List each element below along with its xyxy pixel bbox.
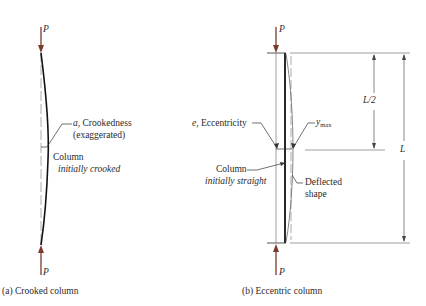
ymax-label: ymax bbox=[316, 117, 331, 130]
ymax-leader bbox=[293, 123, 315, 148]
load-label-top-b: P bbox=[279, 24, 285, 35]
deflected-label-2: shape bbox=[305, 189, 327, 200]
crooked-column-curve bbox=[41, 53, 48, 245]
caption-b: (b) Eccentric column bbox=[242, 286, 322, 296]
deflected-label: Deflected bbox=[305, 177, 342, 188]
eccentricity-text: , Eccentricity bbox=[196, 118, 247, 128]
crookedness-text: , Crookedness bbox=[78, 118, 132, 128]
deflected-shape-curve bbox=[286, 54, 293, 242]
deflected-shape-leader bbox=[292, 175, 303, 183]
load-label-top-a: P bbox=[43, 24, 49, 35]
column-label-a: Column bbox=[53, 152, 84, 163]
eccentricity-label: e, Eccentricity bbox=[192, 118, 247, 129]
crookedness-note: (exaggerated) bbox=[73, 130, 125, 141]
crookedness-label: a, Crookedness bbox=[73, 118, 132, 129]
ymax-subscript: max bbox=[320, 121, 331, 128]
crooked-column-diagram bbox=[38, 27, 72, 275]
crookedness-leader bbox=[47, 124, 72, 147]
column-note-a: initially crooked bbox=[58, 164, 120, 175]
caption-a: (a) Crooked column bbox=[2, 286, 79, 296]
load-label-bottom-b: P bbox=[279, 267, 285, 278]
eccentricity-leader bbox=[252, 123, 277, 148]
column-label-b: Column bbox=[216, 164, 247, 175]
load-label-bottom-a: P bbox=[43, 267, 49, 278]
half-length-label: L/2 bbox=[363, 95, 376, 106]
column-straight-leader bbox=[247, 163, 284, 170]
column-note-b: initially straight bbox=[205, 176, 267, 187]
eccentric-column-diagram bbox=[247, 27, 410, 275]
length-label: L bbox=[400, 144, 405, 155]
